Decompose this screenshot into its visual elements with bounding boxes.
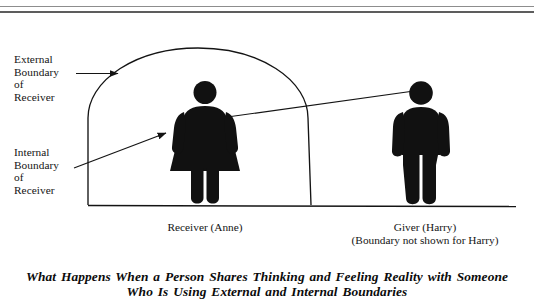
giver-caption-line-1: Giver (Harry)	[330, 221, 520, 234]
internal-boundary-label-line-4: Receiver	[14, 184, 59, 197]
ground-baseline	[88, 206, 516, 207]
giver-to-receiver-line	[213, 91, 414, 119]
internal-boundary-label-line-1: Internal	[14, 146, 59, 159]
receiver-caption: Receiver (Anne)	[115, 221, 295, 234]
external-boundary-label-line-4: Receiver	[14, 91, 59, 104]
figure-title: What Happens When a Person Shares Thinki…	[0, 269, 534, 299]
figure-title-line-2: Who Is Using External and Internal Bound…	[0, 284, 534, 299]
giver-caption: Giver (Harry) (Boundary not shown for Ha…	[330, 221, 520, 248]
giver-caption-line-2: (Boundary not shown for Harry)	[330, 234, 520, 247]
external-boundary-label: External Boundary of Receiver	[14, 53, 59, 103]
internal-boundary-label-line-3: of	[14, 171, 59, 184]
external-boundary-label-line-2: Boundary	[14, 66, 59, 79]
external-boundary-label-line-1: External	[14, 53, 59, 66]
figure-title-line-1: What Happens When a Person Shares Thinki…	[0, 269, 534, 284]
receiver-caption-line-1: Receiver (Anne)	[115, 221, 295, 234]
internal-boundary-label: Internal Boundary of Receiver	[14, 146, 59, 196]
external-boundary-label-line-3: of	[14, 78, 59, 91]
male-figure	[392, 81, 450, 204]
internal-boundary-label-line-2: Boundary	[14, 159, 59, 172]
female-figure	[170, 81, 240, 204]
